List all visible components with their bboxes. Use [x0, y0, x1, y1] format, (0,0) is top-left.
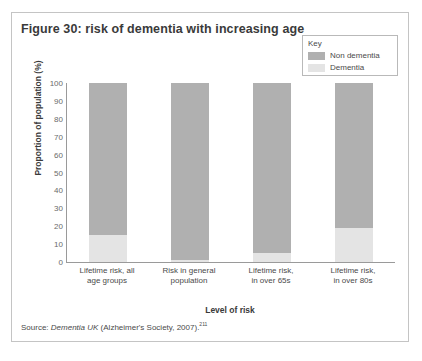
bar-1 [89, 83, 127, 262]
source-rest: (Alzheimer's Society, 2007). [98, 323, 199, 332]
x-axis-label-4: Lifetime risk,in over 80s [314, 266, 392, 286]
y-axis-tick: 80 [54, 114, 63, 123]
y-axis-tick: 30 [54, 204, 63, 213]
y-axis-tick: 20 [54, 222, 63, 231]
y-axis-tick: 40 [54, 186, 63, 195]
plot-area: 1009080706050403020100 [66, 83, 395, 263]
source-note: Source: Dementia UK (Alzheimer's Society… [21, 321, 207, 332]
bar-segment-dementia [171, 260, 209, 262]
chart-plot-wrapper: Proportion of population (%) 10090807060… [12, 13, 408, 341]
source-reference: 211 [199, 321, 207, 327]
bar-segment-dementia [89, 235, 127, 262]
y-axis-tick: 0 [59, 258, 63, 267]
x-axis-label-3: Lifetime risk,in over 65s [232, 266, 310, 286]
figure-frame: Figure 30: risk of dementia with increas… [11, 12, 409, 342]
x-axis-label-1: Lifetime risk, allage groups [68, 266, 146, 286]
y-axis-tick: 70 [54, 132, 63, 141]
bar-2 [171, 83, 209, 262]
bar-4 [335, 83, 373, 262]
y-axis-tick: 60 [54, 150, 63, 159]
x-axis-label-2: Risk in generalpopulation [150, 266, 228, 286]
bar-segment-dementia [253, 253, 291, 262]
y-axis-tick: 10 [54, 240, 63, 249]
source-prefix: Source: [21, 323, 51, 332]
source-publication: Dementia UK [51, 323, 99, 332]
bar-segment-non-dementia [89, 83, 127, 235]
bar-segment-non-dementia [171, 83, 209, 260]
y-axis-tick: 100 [50, 79, 63, 88]
x-axis-title: Level of risk [66, 305, 394, 315]
bar-3 [253, 83, 291, 262]
bar-segment-dementia [335, 228, 373, 262]
bar-segment-non-dementia [335, 83, 373, 228]
x-axis-labels: Lifetime risk, allage groupsRisk in gene… [66, 266, 394, 286]
bar-segment-non-dementia [253, 83, 291, 253]
bars-container [67, 83, 395, 262]
y-axis-title: Proportion of population (%) [33, 48, 43, 188]
y-axis-tick: 90 [54, 96, 63, 105]
y-axis-tick: 50 [54, 168, 63, 177]
